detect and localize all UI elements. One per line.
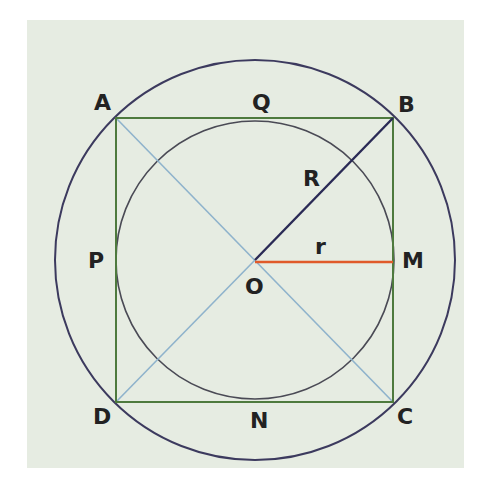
label-N: N xyxy=(250,408,268,433)
label-r: r xyxy=(315,234,326,259)
label-C: C xyxy=(397,404,413,429)
label-O: O xyxy=(245,274,264,299)
geometry-diagram: A Q B R P r M O D N C xyxy=(0,0,503,504)
label-Q: Q xyxy=(252,90,271,115)
label-A: A xyxy=(94,90,111,115)
label-D: D xyxy=(93,404,111,429)
label-M: M xyxy=(402,248,424,273)
label-B: B xyxy=(398,92,415,117)
label-R: R xyxy=(303,166,320,191)
label-P: P xyxy=(88,248,104,273)
